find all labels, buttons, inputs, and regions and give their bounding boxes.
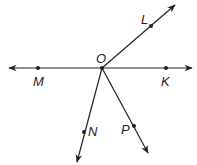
point-m — [36, 66, 40, 70]
point-n — [82, 130, 86, 134]
point-o — [100, 66, 104, 70]
label-m: M — [33, 74, 44, 89]
point-l — [149, 24, 153, 28]
label-l: L — [141, 12, 148, 27]
ray-ol — [102, 5, 175, 68]
point-p — [132, 124, 136, 128]
ray-op — [102, 68, 148, 153]
label-o: O — [96, 51, 106, 66]
ray-on — [77, 68, 102, 162]
label-k: K — [161, 74, 171, 89]
label-p: P — [121, 122, 130, 137]
point-k — [164, 66, 168, 70]
label-n: N — [88, 124, 98, 139]
geometry-diagram: O M K L N P — [0, 0, 197, 165]
